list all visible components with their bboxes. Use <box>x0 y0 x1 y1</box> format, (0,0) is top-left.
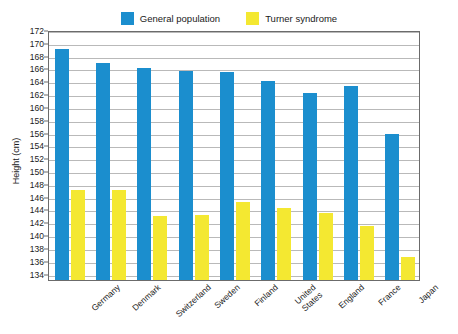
y-axis-tick-label: 154 <box>30 142 44 151</box>
y-axis-tick-label: 152 <box>30 155 44 164</box>
y-axis-tick-label: 160 <box>30 104 44 113</box>
y-axis-tick-label: 168 <box>30 52 44 61</box>
y-axis-tick-label: 172 <box>30 27 44 36</box>
bar-turner-germany <box>71 190 85 280</box>
bar-general-finland <box>220 72 234 280</box>
x-axis-tick-label: Sweden <box>213 283 242 311</box>
x-axis-tick-label: Japan <box>417 283 441 306</box>
legend-swatch-blue <box>121 12 134 25</box>
chart-legend: General population Turner syndrome <box>0 12 458 25</box>
bar-general-sweden <box>179 71 193 280</box>
bar-general-denmark <box>96 63 110 280</box>
bar-turner-switzerland <box>153 216 167 280</box>
legend-label-general-population: General population <box>140 14 220 24</box>
x-axis-tick-label: England <box>337 283 367 311</box>
bar-turner-japan <box>401 257 415 280</box>
bar-turner-united-states <box>277 208 291 280</box>
x-axis-tick-label: Switzerland <box>175 283 214 320</box>
bar-turner-finland <box>236 202 250 280</box>
y-axis-tick-label: 164 <box>30 78 44 87</box>
bar-turner-denmark <box>112 190 126 280</box>
y-axis-tick-label: 144 <box>30 206 44 215</box>
x-axis-tick-label: UnitedStates <box>294 283 325 314</box>
bar-general-switzerland <box>137 68 151 280</box>
legend-entry-turner-syndrome: Turner syndrome <box>246 12 337 25</box>
y-axis-tick-label: 150 <box>30 168 44 177</box>
bar-general-england <box>303 93 317 280</box>
y-axis-tick-label: 142 <box>30 219 44 228</box>
legend-label-turner-syndrome: Turner syndrome <box>265 14 337 24</box>
bar-turner-sweden <box>195 215 209 280</box>
bar-general-united-states <box>261 81 275 280</box>
y-axis-tick-label: 134 <box>30 270 44 279</box>
y-axis-tick-label: 148 <box>30 181 44 190</box>
y-axis-tick-label: 140 <box>30 232 44 241</box>
y-axis-tick-label: 136 <box>30 258 44 267</box>
bar-general-france <box>344 86 358 280</box>
bar-series-container <box>49 32 419 280</box>
x-axis-tick-label: France <box>377 283 403 308</box>
y-axis-tick-label: 156 <box>30 129 44 138</box>
y-axis-tick-label: 158 <box>30 116 44 125</box>
bar-general-japan <box>385 134 399 280</box>
x-axis-tick-label: Denmark <box>131 283 163 313</box>
plot-area <box>48 31 420 281</box>
y-axis-tick-label: 162 <box>30 91 44 100</box>
y-axis-tick-label: 138 <box>30 245 44 254</box>
bar-general-germany <box>55 49 69 280</box>
legend-swatch-yellow <box>246 12 259 25</box>
x-axis-tick-label: Germany <box>90 283 123 314</box>
y-axis-ticks: 1721701681661641621601581561541521501481… <box>0 31 48 281</box>
y-axis-tick-label: 146 <box>30 193 44 202</box>
legend-entry-general-population: General population <box>121 12 220 25</box>
chart-root: General population Turner syndrome Heigh… <box>0 0 458 334</box>
x-axis-labels: GermanyDenmarkSwitzerlandSwedenFinlandUn… <box>48 283 420 334</box>
y-axis-tick-label: 166 <box>30 65 44 74</box>
bar-turner-france <box>360 226 374 280</box>
y-axis-tick-label: 170 <box>30 40 44 49</box>
bar-turner-england <box>319 213 333 280</box>
x-axis-tick-label: Finland <box>253 283 280 309</box>
